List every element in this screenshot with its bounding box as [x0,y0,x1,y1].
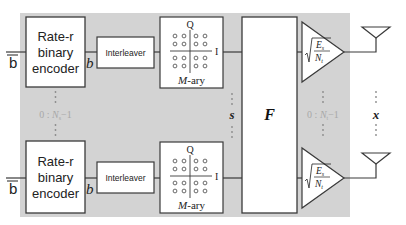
i-axis-label: I [215,171,218,182]
antenna-icon [362,153,390,164]
modulator-label: M-ary [177,199,205,211]
encoder-label-line3: encoder [32,186,80,201]
interleaver-label: Interleaver [105,48,145,58]
encoder-label-line3: encoder [32,61,80,76]
mimo-transmitter-diagram: b Rate-r binary encoder b Interleaver Q … [0,0,406,225]
transmit-vector-label: x [372,107,380,122]
encoder-label-line1: Rate-r [37,154,74,169]
symbol-vector-label: s [228,107,234,122]
stream-index-label: 0 : Ns−1 [39,109,71,121]
q-axis-label: Q [186,144,194,155]
coded-bit-label: b [86,181,94,197]
encoder-label-line1: Rate-r [37,29,74,44]
antenna-icon [362,27,390,38]
modulator-label: M-ary [177,74,205,86]
coded-bit-label: b [86,55,94,71]
precoder-label: F [263,106,275,123]
interleaver-label: Interleaver [105,173,145,183]
encoder-label-line2: binary [38,45,74,60]
input-bit-label: b [9,54,17,71]
i-axis-label: I [215,46,218,57]
q-axis-label: Q [186,19,194,30]
antenna-index-label: 0 : Nt−1 [307,109,339,121]
encoder-label-line2: binary [38,170,74,185]
input-bit-label: b [9,180,17,197]
